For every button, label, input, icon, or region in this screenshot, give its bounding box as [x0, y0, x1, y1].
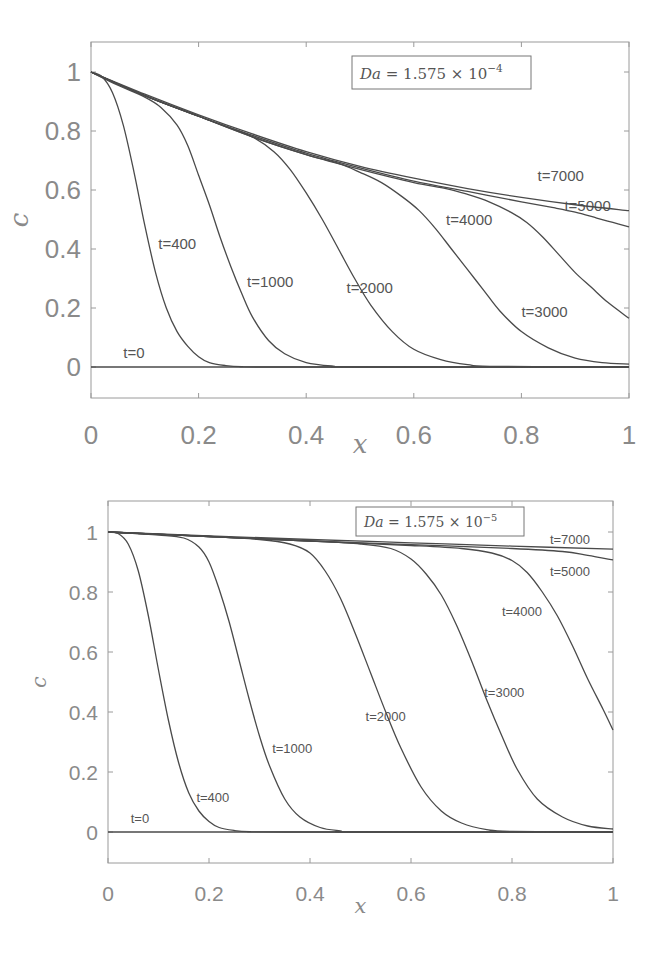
x-tick-label: 0.6 — [396, 420, 432, 450]
x-tick-label: 0.8 — [497, 882, 526, 905]
x-tick-label: 0 — [84, 420, 98, 450]
curve-t-7000 — [91, 72, 629, 211]
x-tick-label: 1 — [607, 882, 619, 905]
curve-label: t=0 — [123, 344, 144, 361]
curve-label: t=7000 — [550, 532, 590, 547]
x-tick-label: 0.6 — [396, 882, 425, 905]
curve-t-1000 — [91, 72, 629, 367]
y-tick-label: 0.2 — [45, 293, 81, 323]
curve-label: t=2000 — [366, 709, 406, 724]
curve-label: t=4000 — [446, 211, 492, 228]
curve-label: t=2000 — [347, 279, 393, 296]
curve-t-400 — [108, 532, 613, 832]
curve-t-2000 — [91, 72, 629, 367]
chart-bottom-da-1e-5: 00.20.40.60.8100.20.40.60.81xct=0t=400t=… — [0, 479, 662, 958]
legend-text: Da = 1.575 × 10−4 — [359, 62, 503, 83]
y-tick-label: 0.6 — [69, 641, 98, 664]
curve-label: t=3000 — [484, 685, 524, 700]
curve-label: t=4000 — [502, 604, 542, 619]
y-tick-label: 0.6 — [45, 175, 81, 205]
x-tick-label: 0.2 — [194, 882, 223, 905]
y-tick-label: 0.4 — [69, 701, 99, 724]
curve-label: t=5000 — [564, 197, 610, 214]
curve-t-5000 — [91, 72, 629, 227]
x-axis-label: x — [355, 894, 367, 918]
curve-label: t=1000 — [247, 273, 293, 290]
curve-label: t=7000 — [538, 167, 584, 184]
x-tick-label: 0.8 — [503, 420, 539, 450]
legend-text: Da = 1.575 × 10−5 — [363, 512, 497, 530]
x-axis-label: x — [353, 429, 368, 459]
x-tick-label: 0.4 — [288, 420, 324, 450]
x-tick-label: 1 — [622, 420, 636, 450]
curve-t-4000 — [108, 532, 613, 730]
y-tick-label: 1 — [67, 57, 81, 87]
y-axis-label: c — [27, 676, 51, 688]
curve-t-3000 — [108, 532, 613, 829]
y-tick-label: 1 — [86, 521, 98, 544]
y-tick-label: 0.8 — [45, 116, 81, 146]
curve-t-2000 — [108, 532, 613, 832]
curve-label: t=0 — [131, 811, 149, 826]
curve-label: t=400 — [158, 235, 196, 252]
curve-label: t=400 — [196, 790, 229, 805]
x-tick-label: 0.2 — [181, 420, 217, 450]
y-tick-label: 0.2 — [69, 761, 98, 784]
y-axis-label: c — [4, 212, 34, 227]
x-tick-label: 0 — [102, 882, 114, 905]
plot-area: 00.20.40.60.8100.20.40.60.81xct=0t=400t=… — [0, 0, 662, 479]
axes-frame — [108, 501, 613, 863]
chart-top-da-1e-4: 00.20.40.60.8100.20.40.60.81xct=0t=400t=… — [0, 0, 662, 479]
y-tick-label: 0 — [67, 352, 81, 382]
curve-label: t=1000 — [272, 741, 312, 756]
curve-t-400 — [91, 72, 629, 367]
curve-label: t=5000 — [550, 564, 590, 579]
y-tick-label: 0.8 — [69, 581, 98, 604]
plot-area: 00.20.40.60.8100.20.40.60.81xct=0t=400t=… — [0, 479, 662, 958]
y-tick-label: 0 — [86, 821, 98, 844]
curve-label: t=3000 — [521, 303, 567, 320]
x-tick-label: 0.4 — [295, 882, 325, 905]
y-tick-label: 0.4 — [45, 234, 81, 264]
axes-frame — [91, 42, 629, 398]
curve-t-1000 — [108, 532, 613, 832]
